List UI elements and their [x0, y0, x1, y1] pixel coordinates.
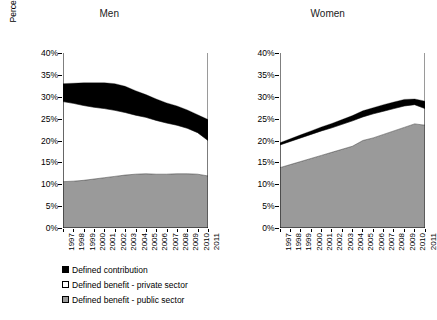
plot-area-women [280, 53, 425, 228]
x-tick-mark [414, 229, 415, 232]
y-tick-mark [275, 162, 279, 163]
x-tick-label: 2000 [315, 233, 324, 251]
legend-item[interactable]: Defined contribution [62, 262, 188, 277]
y-tick-mark [275, 141, 279, 142]
x-tick-label: 1999 [304, 233, 313, 251]
x-tick-mark [373, 229, 374, 232]
y-axis-ticks-women: 0%5%10%15%20%25%30%35%40% [245, 47, 279, 234]
x-tick-mark [198, 229, 199, 232]
x-tick-mark [362, 229, 363, 232]
y-tick-mark [58, 162, 62, 163]
x-tick-label: 1998 [294, 233, 303, 251]
y-tick-mark [275, 75, 279, 76]
x-tick-mark [177, 229, 178, 232]
x-tick-mark [167, 229, 168, 232]
x-tick-label: 2004 [356, 233, 365, 251]
x-tick-label: 1998 [77, 233, 86, 251]
x-tick-label: 1997 [67, 233, 76, 251]
y-tick-mark [275, 97, 279, 98]
x-tick-label: 2011 [429, 233, 437, 250]
y-tick-label: 25% [41, 114, 58, 124]
x-tick-label: 2006 [160, 233, 169, 251]
x-tick-mark [352, 229, 353, 232]
y-tick-label: 30% [41, 92, 58, 102]
y-tick-mark [275, 184, 279, 185]
x-tick-mark [311, 229, 312, 232]
x-tick-label: 2005 [366, 233, 375, 251]
legend-item[interactable]: Defined benefit - public sector [62, 292, 188, 307]
x-tick-mark [300, 229, 301, 232]
y-tick-label: 40% [41, 48, 58, 58]
y-tick-label: 40% [257, 48, 274, 58]
x-tick-label: 2004 [140, 233, 149, 251]
x-tick-mark [425, 229, 426, 232]
y-tick-mark [58, 184, 62, 185]
x-tick-mark [73, 229, 74, 232]
y-tick-label: 15% [41, 157, 58, 167]
legend-label: Defined contribution [72, 265, 148, 275]
x-tick-mark [321, 229, 322, 232]
y-axis-ticks-men: 0%5%10%15%20%25%30%35%40% [28, 47, 62, 234]
y-tick-label: 25% [257, 114, 274, 124]
x-tick-mark [342, 229, 343, 232]
y-tick-label: 35% [257, 70, 274, 80]
panel-men: Men Percentage of individuals 0%5%10%15%… [0, 0, 219, 320]
x-tick-label: 1999 [88, 233, 97, 251]
x-tick-label: 2008 [181, 233, 190, 251]
x-tick-label: 2010 [418, 233, 427, 251]
y-tick-label: 0% [46, 223, 58, 233]
y-tick-label: 30% [257, 92, 274, 102]
y-tick-label: 35% [41, 70, 58, 80]
y-tick-mark [275, 53, 279, 54]
y-tick-label: 15% [257, 157, 274, 167]
x-tick-mark [393, 229, 394, 232]
x-tick-mark [156, 229, 157, 232]
legend-men: Defined contributionDefined benefit - pr… [62, 262, 188, 307]
y-tick-label: 0% [262, 223, 274, 233]
y-tick-label: 10% [257, 179, 274, 189]
y-tick-mark [275, 119, 279, 120]
x-axis-ticks-women: 1997199819992000200120022003200420052006… [280, 229, 425, 275]
x-tick-label: 2002 [335, 233, 344, 251]
area-series [63, 174, 208, 228]
area-chart-women [280, 53, 425, 228]
plot-area-men [63, 53, 208, 228]
x-tick-mark [136, 229, 137, 232]
x-tick-mark [146, 229, 147, 232]
x-tick-label: 2003 [129, 233, 138, 251]
x-tick-label: 2007 [387, 233, 396, 251]
y-tick-mark [275, 206, 279, 207]
x-tick-mark [104, 229, 105, 232]
x-tick-mark [84, 229, 85, 232]
x-tick-label: 2000 [98, 233, 107, 251]
x-tick-label: 2003 [346, 233, 355, 251]
x-tick-label: 2006 [377, 233, 386, 251]
x-tick-label: 2007 [171, 233, 180, 251]
x-tick-mark [404, 229, 405, 232]
x-tick-mark [208, 229, 209, 232]
x-tick-mark [280, 229, 281, 232]
legend-swatch-icon [62, 281, 69, 288]
panel-title-men: Men [0, 8, 219, 19]
legend-label: Defined benefit - public sector [72, 295, 184, 305]
legend-item[interactable]: Defined benefit - private sector [62, 277, 188, 292]
x-tick-label: 2009 [408, 233, 417, 251]
legend-swatch-icon [62, 296, 69, 303]
x-tick-label: 2001 [325, 233, 334, 251]
y-tick-label: 20% [41, 136, 58, 146]
x-tick-label: 1997 [284, 233, 293, 251]
y-tick-mark [58, 97, 62, 98]
x-tick-mark [63, 229, 64, 232]
x-tick-label: 2008 [397, 233, 406, 251]
y-tick-mark [58, 228, 62, 229]
x-tick-mark [125, 229, 126, 232]
y-tick-mark [58, 119, 62, 120]
y-tick-label: 20% [257, 136, 274, 146]
y-tick-mark [58, 53, 62, 54]
y-axis-label-men: Percentage of individuals [8, 0, 22, 50]
area-chart-men [63, 53, 208, 228]
x-tick-mark [187, 229, 188, 232]
x-tick-label: 2005 [150, 233, 159, 251]
y-tick-label: 5% [46, 201, 58, 211]
x-tick-mark [115, 229, 116, 232]
